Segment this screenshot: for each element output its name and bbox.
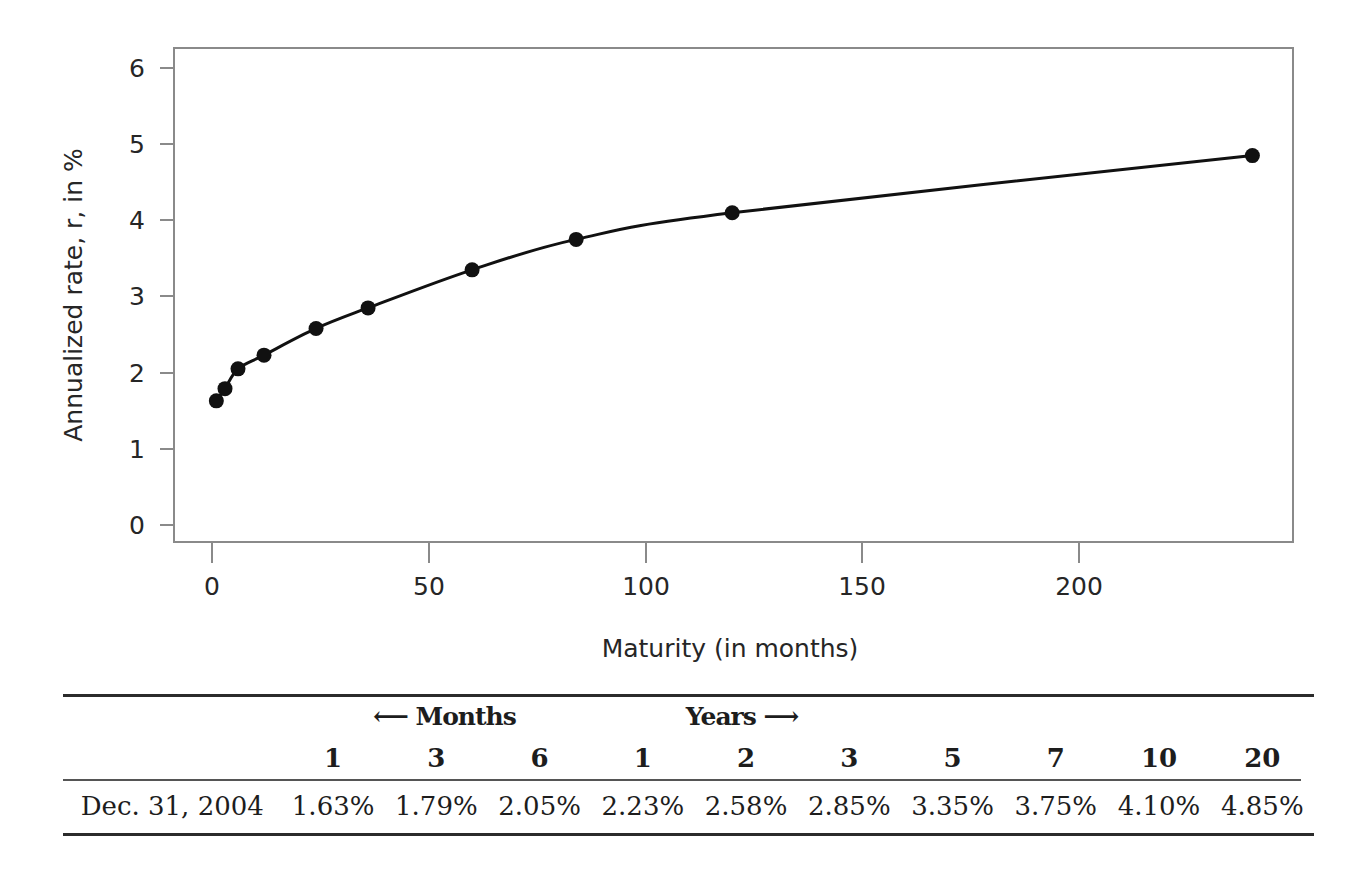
x-tick-label-200: 200: [1055, 572, 1103, 601]
y-tick-label-6: 6: [129, 54, 145, 83]
data-point-36mo: [361, 300, 376, 315]
y-tick-label-4: 4: [129, 206, 145, 235]
table-row: Dec. 31, 2004 1.63% 1.79% 2.05% 2.23% 2.…: [63, 781, 1314, 831]
y-tick-label-2: 2: [129, 359, 145, 388]
rate-value-20y: 4.85%: [1211, 781, 1314, 831]
column-header-1m: 1: [282, 737, 385, 779]
data-point-120mo: [725, 205, 740, 220]
group-spacer-4: [1107, 697, 1210, 737]
column-header-6m: 6: [488, 737, 591, 779]
x-tick-label-0: 0: [204, 572, 220, 601]
column-header-3y: 3: [798, 737, 901, 779]
group-spacer-3: [1004, 697, 1107, 737]
y-axis-title: Annualized rate, r, in %: [59, 148, 88, 442]
rate-value-5y: 3.35%: [901, 781, 1004, 831]
rate-value-7y: 3.75%: [1004, 781, 1107, 831]
table-column-header-row: 1 3 6 1 2 3 5 7 10 20: [63, 737, 1314, 779]
x-tick-label-100: 100: [622, 572, 670, 601]
rate-value-6m: 2.05%: [488, 781, 591, 831]
group-spacer-2: [901, 697, 1004, 737]
data-point-240mo: [1245, 148, 1260, 163]
group-header-months-label: ⟵ Months: [373, 702, 516, 731]
data-point-6mo: [231, 361, 246, 376]
column-header-20y: 20: [1211, 737, 1314, 779]
group-spacer-5: [1211, 697, 1314, 737]
data-point-3mo: [218, 381, 233, 396]
y-tick-label-3: 3: [129, 282, 145, 311]
column-header-3m: 3: [385, 737, 488, 779]
data-point-84mo: [569, 232, 584, 247]
chart-canvas: 6 5 4 3 2 1 0 0 50 100 150 200 Maturity …: [0, 0, 1369, 680]
rate-value-1m: 1.63%: [282, 781, 385, 831]
column-header-5y: 5: [901, 737, 1004, 779]
rate-value-1y: 2.23%: [591, 781, 694, 831]
column-header-10y: 10: [1107, 737, 1210, 779]
x-tick-label-150: 150: [838, 572, 886, 601]
group-header-months: ⟵ Months: [282, 697, 592, 737]
data-point-24mo: [309, 321, 324, 336]
column-header-2y: 2: [694, 737, 797, 779]
x-tick-label-50: 50: [413, 572, 445, 601]
table-group-header-row: ⟵ Months Years ⟶: [63, 697, 1314, 737]
y-tick-label-0: 0: [129, 511, 145, 540]
x-axis-title: Maturity (in months): [602, 634, 859, 663]
rate-value-3m: 1.79%: [385, 781, 488, 831]
column-header-blank: [63, 737, 282, 779]
group-header-years: Years ⟶: [591, 697, 901, 737]
data-point-12mo: [257, 348, 272, 363]
plot-frame: [174, 48, 1293, 542]
y-tick-label-5: 5: [129, 130, 145, 159]
y-axis-ticks: [160, 68, 174, 525]
rates-table: ⟵ Months Years ⟶ 1 3 6 1 2 3 5 7: [63, 694, 1314, 836]
x-axis-ticks: [212, 542, 1079, 563]
column-header-7y: 7: [1004, 737, 1107, 779]
y-tick-label-1: 1: [129, 435, 145, 464]
rate-value-2y: 2.58%: [694, 781, 797, 831]
table-bottom-rule: [63, 833, 1314, 836]
rate-value-10y: 4.10%: [1107, 781, 1210, 831]
row-date-label: Dec. 31, 2004: [63, 781, 282, 831]
data-point-60mo: [465, 262, 480, 277]
yield-curve-figure: 6 5 4 3 2 1 0 0 50 100 150 200 Maturity …: [0, 0, 1369, 680]
column-header-1y: 1: [591, 737, 694, 779]
data-point-1mo: [209, 393, 224, 408]
group-spacer: [63, 697, 282, 737]
group-header-years-label: Years ⟶: [686, 702, 799, 731]
rate-value-3y: 2.85%: [798, 781, 901, 831]
